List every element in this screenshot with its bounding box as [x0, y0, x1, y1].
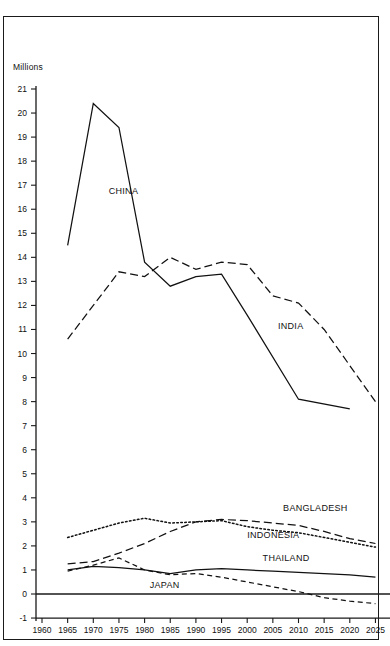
- y-axis-tick-label: 5: [5, 469, 27, 479]
- y-axis-tick-label: 16: [5, 204, 27, 214]
- y-axis-tick-label: 17: [5, 180, 27, 190]
- series-label-indonesia: INDONESIA: [247, 530, 299, 540]
- y-axis-tick-label: -1: [5, 613, 27, 623]
- series-label-china: CHINA: [109, 186, 139, 196]
- y-axis-tick-label: 21: [5, 84, 27, 94]
- y-axis-tick-label: 8: [5, 397, 27, 407]
- series-label-thailand: THAILAND: [263, 553, 310, 563]
- y-axis-tick-label: 18: [5, 156, 27, 166]
- series-label-japan: JAPAN: [150, 580, 180, 590]
- y-axis-tick-label: 7: [5, 421, 27, 431]
- y-axis-tick-label: 6: [5, 445, 27, 455]
- y-axis-tick-label: 9: [5, 373, 27, 383]
- series-label-bangladesh: BANGLADESH: [283, 503, 348, 513]
- y-axis-tick-label: 4: [5, 493, 27, 503]
- y-axis-tick-label: 15: [5, 228, 27, 238]
- y-axis-tick-label: 20: [5, 108, 27, 118]
- series-line-india: [68, 257, 376, 401]
- series-line-china: [68, 103, 350, 408]
- y-axis-tick-label: 10: [5, 349, 27, 359]
- y-axis-tick-label: 12: [5, 300, 27, 310]
- y-axis-tick-label: 19: [5, 132, 27, 142]
- y-axis-tick-label: 0: [5, 589, 27, 599]
- series-line-thailand: [68, 566, 376, 577]
- x-axis-tick-label: 2025: [360, 625, 390, 635]
- y-axis-tick-label: 3: [5, 517, 27, 527]
- y-axis-tick-label: 1: [5, 565, 27, 575]
- y-axis-tick-label: 13: [5, 276, 27, 286]
- y-axis-tick-label: 14: [5, 252, 27, 262]
- y-axis-tick-label: 2: [5, 541, 27, 551]
- series-label-india: INDIA: [278, 321, 304, 331]
- series-line-bangladesh: [68, 519, 376, 563]
- y-axis-tick-label: 11: [5, 324, 27, 334]
- series-line-japan: [68, 558, 376, 604]
